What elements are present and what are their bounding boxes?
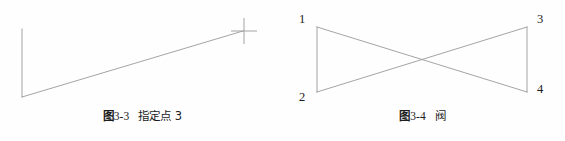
figure-3-4-caption-title: 阀: [435, 109, 446, 123]
figure-3-4-drawing-canvas: [280, 0, 565, 105]
figure-3-3: 图3-3指定点 3: [0, 0, 285, 141]
vertex-label-3: 3: [537, 13, 543, 26]
vertex-label-1: 1: [299, 13, 305, 26]
figure-3-4-caption: 图3-4阀: [280, 108, 565, 124]
figure-3-4: 1 2 3 4 图3-4阀: [280, 0, 565, 141]
vertex-label-2: 2: [299, 91, 305, 104]
figure-page: 图3-3指定点 3 1 2 3 4 图3-4阀: [0, 0, 565, 141]
figure-3-3-caption-tag: 图: [103, 109, 114, 123]
figure-3-3-drawing-canvas: [0, 0, 285, 105]
figure-3-3-svg: [0, 0, 285, 105]
figure-3-4-caption-tag: 图: [399, 109, 410, 123]
figure-3-3-caption-number: 3-3: [114, 110, 129, 122]
polyline-diagonal-segment: [22, 31, 243, 97]
crosshair-cursor-icon: [231, 18, 257, 44]
vertex-label-4: 4: [537, 83, 543, 96]
figure-3-3-caption: 图3-3指定点 3: [0, 108, 285, 124]
figure-3-4-caption-number: 3-4: [410, 110, 425, 122]
figure-3-4-svg: [280, 0, 565, 105]
figure-3-3-caption-title: 指定点 3: [138, 109, 182, 123]
